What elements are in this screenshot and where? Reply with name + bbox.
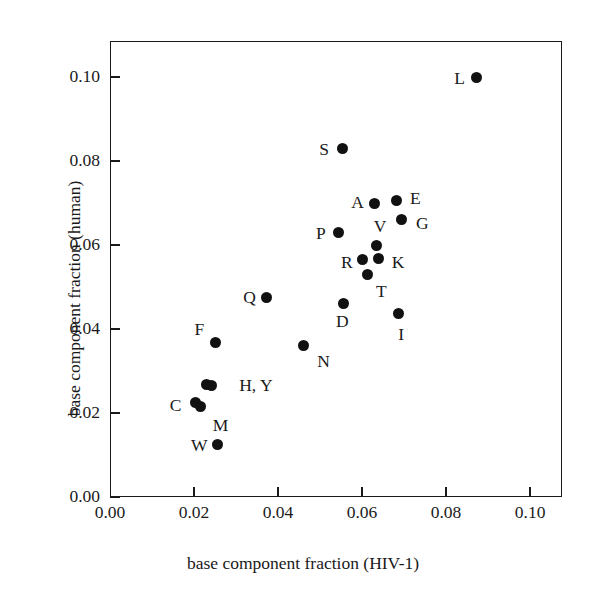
data-point-D xyxy=(338,298,349,309)
point-label-W: W xyxy=(191,437,208,455)
point-label-shared-HY: H, Y xyxy=(239,377,272,395)
data-point-E xyxy=(391,195,402,206)
x-tick-0.02 xyxy=(193,487,195,497)
point-label-R: R xyxy=(341,254,353,272)
x-tick-label-0.04: 0.04 xyxy=(248,504,308,522)
y-tick-0.00 xyxy=(110,496,120,498)
x-tick-0.04 xyxy=(277,487,279,497)
x-tick-0.06 xyxy=(361,487,363,497)
data-point-N xyxy=(298,340,309,351)
point-label-T: T xyxy=(376,283,387,301)
y-tick-0.04 xyxy=(110,328,120,330)
data-point-M xyxy=(195,401,206,412)
data-point-I xyxy=(393,308,404,319)
x-tick-0.10 xyxy=(529,487,531,497)
data-point-A xyxy=(369,198,380,209)
point-label-A: A xyxy=(351,194,364,212)
point-label-Q: Q xyxy=(243,289,256,307)
y-tick-0.02 xyxy=(110,412,120,414)
x-tick-label-0.10: 0.10 xyxy=(500,504,560,522)
point-label-L: L xyxy=(454,70,465,88)
point-label-S: S xyxy=(319,141,329,159)
scatter-plot-figure: 0.000.020.040.060.080.10 0.000.020.040.0… xyxy=(0,0,606,604)
y-tick-label-0.10: 0.10 xyxy=(40,68,100,86)
x-tick-label-0.02: 0.02 xyxy=(164,504,224,522)
y-tick-0.08 xyxy=(110,160,120,162)
data-point-P xyxy=(333,227,344,238)
point-label-D: D xyxy=(336,313,349,331)
point-label-F: F xyxy=(194,321,204,339)
point-label-V: V xyxy=(374,218,387,236)
point-label-C: C xyxy=(170,397,182,415)
y-axis-label: base component fraction (human) xyxy=(64,89,85,509)
y-tick-0.10 xyxy=(110,76,120,78)
y-tick-0.06 xyxy=(110,244,120,246)
point-label-E: E xyxy=(410,190,421,208)
x-tick-label-0.08: 0.08 xyxy=(416,504,476,522)
x-tick-0.08 xyxy=(445,487,447,497)
point-label-M: M xyxy=(213,417,229,435)
x-tick-label-0.00: 0.00 xyxy=(80,504,140,522)
x-tick-label-0.06: 0.06 xyxy=(332,504,392,522)
x-axis-label: base component fraction (HIV-1) xyxy=(0,553,606,574)
data-point-W xyxy=(212,439,223,450)
data-point-T xyxy=(362,269,373,280)
point-label-K: K xyxy=(392,254,405,272)
plot-frame xyxy=(110,41,562,497)
point-label-G: G xyxy=(416,215,429,233)
data-point-Y xyxy=(206,380,217,391)
point-label-I: I xyxy=(398,326,404,344)
point-label-N: N xyxy=(317,353,330,371)
point-label-P: P xyxy=(316,225,326,243)
